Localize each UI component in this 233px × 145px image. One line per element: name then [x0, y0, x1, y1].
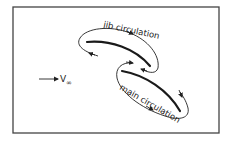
jib-sail: [87, 42, 150, 66]
main-circulation-label: main circulation: [118, 82, 182, 125]
freestream-infinity-subscript: ∞: [66, 79, 72, 87]
sail-circulation-diagram: jib circulation main circulation V ∞: [0, 0, 233, 145]
jib-circulation-label: jib circulation: [102, 19, 161, 41]
jib-loop-arrow-bottom: [89, 53, 95, 55]
